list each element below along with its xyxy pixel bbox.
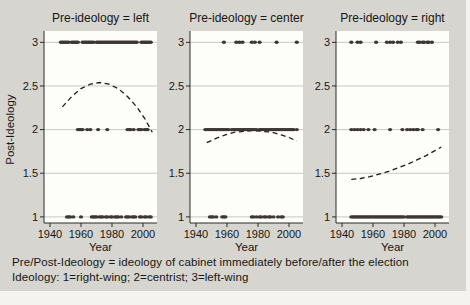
y-tick-label: 2: [324, 123, 330, 135]
x-tick-label: 2000: [277, 228, 301, 240]
data-point: [281, 215, 285, 218]
data-point: [71, 215, 75, 218]
y-tick-label: 1.5: [315, 167, 330, 179]
data-point: [146, 128, 150, 131]
data-point: [253, 41, 257, 44]
panel-1: 11.522.531940196019802000YearPre-ideolog…: [23, 11, 157, 253]
plot-area: [336, 31, 449, 223]
data-point: [295, 128, 299, 131]
data-point: [436, 128, 440, 131]
x-axis-title: Year: [235, 241, 258, 253]
data-point: [119, 215, 123, 218]
data-point: [214, 215, 218, 218]
y-tick-label: 2.5: [315, 80, 330, 92]
y-tick-label: 1.5: [169, 167, 184, 179]
data-point: [76, 41, 80, 44]
y-tick-label: 3: [32, 36, 38, 48]
data-point: [132, 128, 136, 131]
data-point: [373, 128, 377, 131]
data-point: [421, 128, 425, 131]
data-point: [105, 128, 109, 131]
caption-line-2: Ideology: 1=right-wing; 2=centrist; 3=le…: [12, 270, 409, 285]
y-axis-title: Post-Ideology: [4, 94, 16, 165]
data-point: [430, 41, 434, 44]
x-tick-label: 1980: [392, 228, 416, 240]
x-tick-label: 1960: [69, 228, 93, 240]
data-point: [96, 128, 100, 131]
panel-3: 11.522.531940196019802000YearPre-ideolog…: [315, 11, 449, 253]
y-tick-label: 1.5: [23, 167, 38, 179]
points-post-1: [349, 215, 443, 218]
data-point: [295, 41, 299, 44]
data-point: [135, 41, 139, 44]
x-axis-title: Year: [381, 241, 404, 253]
data-point: [88, 128, 92, 131]
plot-area: [44, 31, 157, 223]
data-point: [374, 41, 378, 44]
x-tick-label: 1960: [361, 228, 385, 240]
chart-canvas: 11.522.531940196019802000YearPre-ideolog…: [0, 0, 466, 256]
data-point: [222, 41, 226, 44]
data-point: [416, 128, 420, 131]
data-point: [391, 41, 395, 44]
y-tick-label: 2: [178, 123, 184, 135]
plot-area: [190, 31, 303, 223]
points-post-2: [203, 128, 299, 131]
data-point: [271, 215, 275, 218]
data-point: [133, 215, 137, 218]
panel-title: Pre-ideology = right: [340, 11, 445, 25]
x-tick-label: 2000: [131, 228, 155, 240]
caption-line-1: Pre/Post-Ideology = ideology of cabinet …: [12, 255, 409, 270]
data-point: [399, 41, 403, 44]
x-tick-label: 1940: [330, 228, 354, 240]
panel-title: Pre-ideology = center: [189, 11, 303, 25]
data-point: [439, 215, 443, 218]
data-point: [388, 128, 392, 131]
page: 11.522.531940196019802000YearPre-ideolog…: [0, 0, 470, 305]
y-tick-label: 1: [32, 211, 38, 223]
x-tick-label: 1940: [38, 228, 62, 240]
y-tick-label: 3: [178, 36, 184, 48]
y-tick-label: 1: [178, 211, 184, 223]
x-tick-label: 1980: [246, 228, 270, 240]
panel-2: 11.522.531940196019802000YearPre-ideolog…: [169, 11, 304, 253]
y-tick-label: 3: [324, 36, 330, 48]
x-axis-title: Year: [89, 241, 112, 253]
x-tick-label: 1960: [215, 228, 239, 240]
x-tick-label: 1940: [184, 228, 208, 240]
y-tick-label: 2.5: [169, 80, 184, 92]
data-point: [149, 41, 153, 44]
figure-caption: Pre/Post-Ideology = ideology of cabinet …: [12, 255, 409, 285]
y-tick-label: 2: [32, 123, 38, 135]
data-point: [362, 128, 366, 131]
data-point: [79, 215, 83, 218]
y-tick-label: 2.5: [23, 80, 38, 92]
data-point: [275, 41, 279, 44]
y-tick-label: 1: [324, 211, 330, 223]
data-point: [240, 41, 244, 44]
panel-title: Pre-ideology = left: [52, 11, 150, 25]
data-point: [223, 215, 227, 218]
x-tick-label: 1980: [100, 228, 124, 240]
statistical-figure: 11.522.531940196019802000YearPre-ideolog…: [0, 0, 466, 291]
x-tick-label: 2000: [423, 228, 447, 240]
data-point: [359, 41, 363, 44]
data-point: [400, 128, 404, 131]
data-point: [81, 128, 85, 131]
data-point: [366, 128, 370, 131]
data-point: [149, 215, 153, 218]
data-point: [349, 41, 353, 44]
data-point: [258, 41, 262, 44]
